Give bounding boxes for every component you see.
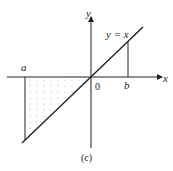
point-a-label: a (21, 61, 27, 73)
x-axis-label: x (162, 72, 168, 84)
point-b-label: b (124, 79, 130, 91)
y-axis-label: y (85, 7, 91, 19)
line-label: y = x (105, 28, 129, 40)
figure-caption: (c) (81, 152, 92, 164)
origin-label: 0 (95, 81, 100, 92)
diagram-canvas: y x 0 y = x a b (c) (0, 0, 173, 171)
